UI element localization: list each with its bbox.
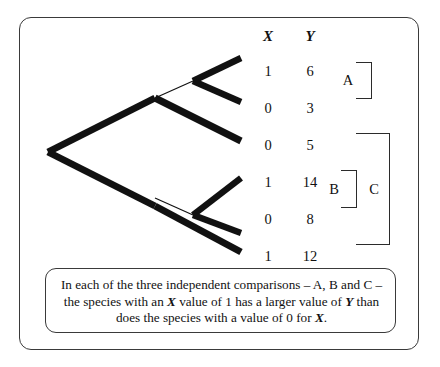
tree-branch-tip-4 bbox=[193, 178, 241, 215]
cell-y-6: 12 bbox=[297, 248, 323, 265]
cell-x-1: 1 bbox=[255, 63, 281, 80]
tree-branch-root-lower bbox=[48, 152, 155, 206]
bracket-a bbox=[356, 62, 372, 99]
caption-var-y: Y bbox=[345, 294, 353, 309]
caption-line1-pre: In each of the three independent compari… bbox=[61, 277, 304, 292]
tree-connector-upper bbox=[155, 81, 193, 98]
cell-y-5: 8 bbox=[297, 211, 323, 228]
cell-x-5: 0 bbox=[255, 211, 281, 228]
caption-line3-pre: does the species with a value of 0 for bbox=[116, 310, 315, 325]
caption-box: In each of the three independent compari… bbox=[45, 268, 396, 333]
cell-y-3: 5 bbox=[297, 137, 323, 154]
comparison-brackets: A C B bbox=[340, 28, 430, 268]
tree-branch-tip-1 bbox=[193, 58, 241, 81]
cell-x-3: 0 bbox=[255, 137, 281, 154]
caption-line2-post: than bbox=[353, 294, 379, 309]
cell-y-2: 3 bbox=[297, 100, 323, 117]
bracket-b bbox=[341, 170, 357, 208]
bracket-label-c: C bbox=[366, 182, 382, 197]
phylogenetic-tree bbox=[30, 28, 255, 268]
caption-line3-post: . bbox=[324, 310, 327, 325]
bracket-label-b: B bbox=[326, 182, 342, 197]
column-header-x: X bbox=[255, 28, 281, 45]
caption-var-x-2: X bbox=[315, 310, 324, 325]
tree-branch-tip-3 bbox=[155, 98, 241, 141]
caption-line2-pre: the species with an bbox=[64, 294, 167, 309]
figure-root: X Y 1 6 0 3 0 5 1 14 0 8 1 12 A C B In e… bbox=[0, 0, 440, 367]
cell-y-1: 6 bbox=[297, 63, 323, 80]
caption-text: In each of the three independent compari… bbox=[54, 277, 389, 327]
tree-branch-tip-2 bbox=[193, 81, 241, 102]
cell-y-4: 14 bbox=[297, 174, 323, 191]
caption-var-x-1: X bbox=[167, 294, 176, 309]
cell-x-2: 0 bbox=[255, 100, 281, 117]
bracket-label-a: A bbox=[340, 73, 356, 88]
caption-line2-mid: value of 1 has a larger value of bbox=[176, 294, 345, 309]
cell-x-4: 1 bbox=[255, 174, 281, 191]
tree-branch-root-upper bbox=[48, 98, 155, 152]
cell-x-6: 1 bbox=[255, 248, 281, 265]
column-header-y: Y bbox=[297, 28, 323, 45]
caption-line1-dash: – A, B and C – bbox=[304, 277, 382, 292]
